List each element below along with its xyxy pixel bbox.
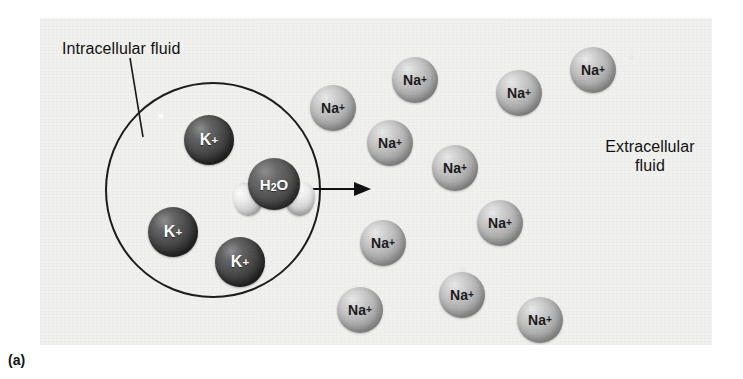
- figure-root: K+ K+ K+ H2O Na+ Na+ Na+ Na+ N: [0, 0, 743, 379]
- ion-sodium: Na+: [310, 85, 356, 131]
- ion-sodium: Na+: [360, 220, 406, 266]
- ion-sodium: Na+: [517, 297, 563, 343]
- ion-sodium-label: Na: [581, 62, 599, 78]
- oxygen-atom: H2O: [248, 158, 300, 210]
- ion-potassium-label: K: [164, 223, 176, 241]
- ion-sodium: Na+: [496, 70, 542, 116]
- ion-sodium-label: Na: [507, 85, 525, 101]
- ion-sodium-label: Na: [528, 312, 546, 328]
- ion-sodium: Na+: [477, 200, 523, 246]
- ion-sodium-label: Na: [348, 302, 366, 318]
- ion-sodium: Na+: [439, 272, 485, 318]
- ion-sodium-label: Na: [371, 235, 389, 251]
- ion-sodium-label: Na: [443, 160, 461, 176]
- ion-potassium-label: K: [231, 253, 243, 271]
- water-molecule: H2O: [233, 158, 315, 220]
- ion-sodium-label: Na: [378, 135, 396, 151]
- ion-potassium: K+: [184, 115, 234, 165]
- ion-sodium-label: Na: [321, 100, 339, 116]
- illustration-panel: K+ K+ K+ H2O Na+ Na+ Na+ Na+ N: [40, 18, 712, 345]
- ion-sodium: Na+: [392, 57, 438, 103]
- label-extracellular-fluid: Extracellular fluid: [585, 138, 712, 176]
- ion-sodium-label: Na: [488, 215, 506, 231]
- ion-sodium: Na+: [367, 120, 413, 166]
- ion-sodium: Na+: [432, 145, 478, 191]
- ion-sodium-label: Na: [403, 72, 421, 88]
- ion-sodium: Na+: [570, 47, 616, 93]
- figure-caption: (a): [8, 352, 25, 368]
- ion-sodium-label: Na: [450, 287, 468, 303]
- water-label-h: H: [260, 176, 271, 193]
- ion-potassium: K+: [148, 207, 198, 257]
- label-intracellular-fluid: Intracellular fluid: [62, 40, 180, 59]
- ion-sodium: Na+: [337, 287, 383, 333]
- water-label-o: O: [277, 176, 289, 193]
- ion-potassium-label: K: [200, 131, 212, 149]
- ion-potassium: K+: [215, 237, 265, 287]
